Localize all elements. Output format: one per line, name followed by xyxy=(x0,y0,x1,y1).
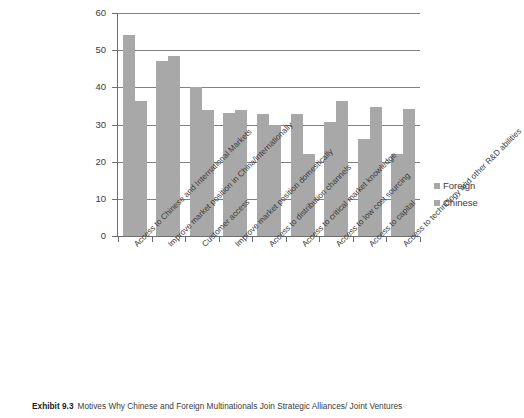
y-tick-mark-40 xyxy=(112,87,117,88)
y-tick-label-60: 60 xyxy=(80,8,106,18)
y-tick-label-0: 0 xyxy=(80,231,106,241)
x-axis-labels: Access to Chinese and International Mark… xyxy=(0,243,494,388)
x-tick-mark xyxy=(252,237,253,242)
x-tick-mark xyxy=(286,237,287,242)
x-tick-mark xyxy=(118,237,119,242)
x-tick-mark xyxy=(319,237,320,242)
x-tick-mark xyxy=(152,237,153,242)
bar-group xyxy=(123,13,147,236)
legend-swatch-icon xyxy=(434,183,440,189)
y-tick-mark-20 xyxy=(112,162,117,163)
legend-label: Foreign xyxy=(443,181,475,191)
x-tick-mark xyxy=(420,237,421,242)
bar-chinese xyxy=(135,101,147,236)
y-tick-mark-50 xyxy=(112,50,117,51)
x-tick-mark xyxy=(219,237,220,242)
legend-label: Chinese xyxy=(443,198,478,208)
chart-legend: ForeignChinese xyxy=(434,177,494,211)
bar-foreign xyxy=(123,35,135,236)
y-tick-label-50: 50 xyxy=(80,45,106,55)
legend-item-chinese[interactable]: Chinese xyxy=(434,194,494,211)
y-tick-label-20: 20 xyxy=(80,157,106,167)
caption-exhibit-number: Exhibit 9.3 xyxy=(32,401,74,411)
y-tick-label-10: 10 xyxy=(80,194,106,204)
legend-item-foreign[interactable]: Foreign xyxy=(434,177,494,194)
caption-description: Motives Why Chinese and Foreign Multinat… xyxy=(78,401,403,411)
x-tick-mark xyxy=(185,237,186,242)
x-tick-mark xyxy=(353,237,354,242)
y-tick-mark-10 xyxy=(112,199,117,200)
legend-swatch-icon xyxy=(434,200,440,206)
y-tick-mark-60 xyxy=(112,13,117,14)
x-tick-mark xyxy=(386,237,387,242)
y-tick-label-30: 30 xyxy=(80,120,106,130)
y-tick-mark-30 xyxy=(112,125,117,126)
y-tick-mark-0 xyxy=(112,236,117,237)
y-tick-label-40: 40 xyxy=(80,82,106,92)
figure-caption: Exhibit 9.3Motives Why Chinese and Forei… xyxy=(32,401,482,412)
